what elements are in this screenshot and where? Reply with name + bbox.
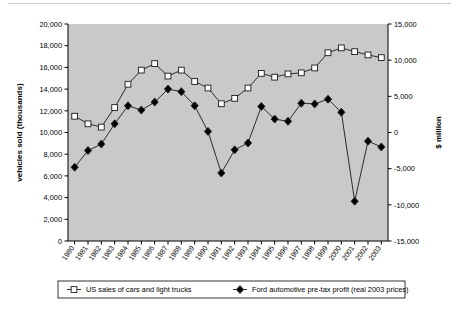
left-axis-tick-label: 0: [58, 237, 62, 246]
right-axis-tick-label: -15,000: [394, 237, 419, 246]
left-y-axis: 02,0004,0006,0008,00010,00012,00014,0001…: [39, 20, 68, 246]
right-axis-tick-label: -10,000: [394, 201, 419, 210]
combination-line-chart: 02,0004,0006,0008,00010,00012,00014,0001…: [0, 0, 459, 311]
x-axis-tick-label: 1995: [260, 244, 277, 262]
data-point: [112, 105, 118, 111]
plot-area-background: [68, 24, 388, 241]
x-axis-tick-label: 1994: [246, 244, 263, 262]
x-axis-tick-label: 1984: [113, 244, 130, 262]
x-axis-tick-label: 2001: [340, 244, 357, 262]
data-point: [192, 79, 198, 85]
left-axis-tick-label: 18,000: [39, 41, 62, 50]
right-axis-tick-label: 5,000: [394, 92, 413, 101]
left-axis-tick-label: 10,000: [39, 128, 62, 137]
x-axis-tick-label: 1982: [86, 244, 103, 262]
right-axis-tick-label: 15,000: [394, 20, 417, 29]
data-point: [352, 49, 358, 55]
legend-marker-open-square: [71, 287, 77, 293]
x-axis-tick-label: 2002: [353, 244, 370, 262]
data-point: [338, 45, 344, 51]
left-axis-tick-label: 20,000: [39, 20, 62, 29]
right-y-axis: -15,000-10,000-5,00005,00010,00015,000: [388, 20, 419, 246]
x-axis-tick-label: 1986: [140, 244, 157, 262]
data-point: [285, 71, 291, 77]
x-axis-tick-label: 1987: [153, 244, 170, 262]
x-axis-tick-label: 2000: [326, 244, 343, 262]
x-axis-tick-label: 1990: [193, 244, 210, 262]
right-axis-tick-label: -5,000: [394, 164, 415, 173]
data-point: [165, 73, 171, 79]
data-point: [272, 74, 278, 80]
left-axis-tick-label: 12,000: [39, 107, 62, 116]
x-axis-tick-label: 1992: [220, 244, 237, 262]
data-point: [138, 67, 144, 73]
x-axis-tick-label: 1993: [233, 244, 250, 262]
x-axis-tick-label: 2003: [366, 244, 383, 262]
x-axis-tick-label: 1991: [206, 244, 223, 262]
data-point: [245, 85, 251, 91]
data-point: [218, 101, 224, 107]
data-point: [98, 124, 104, 130]
left-axis-tick-label: 8,000: [44, 150, 63, 159]
left-axis-tick-label: 6,000: [44, 172, 63, 181]
data-point: [378, 55, 384, 61]
x-axis-tick-label: 1997: [286, 244, 303, 262]
legend-item-1[interactable]: US sales of cars and light trucks: [67, 285, 192, 294]
x-axis-tick-label: 1988: [166, 244, 183, 262]
left-axis-tick-label: 2,000: [44, 215, 63, 224]
data-point: [125, 81, 131, 87]
data-point: [152, 61, 158, 67]
data-point: [325, 50, 331, 56]
data-point: [72, 113, 78, 119]
x-axis-tick-label: 1998: [300, 244, 317, 262]
data-point: [365, 52, 371, 58]
x-axis-tick-label: 1981: [73, 244, 90, 262]
legend-label: US sales of cars and light trucks: [86, 285, 192, 294]
x-axis-tick-label: 1999: [313, 244, 330, 262]
x-axis-tick-label: 1989: [180, 244, 197, 262]
x-axis-tick-label: 1996: [273, 244, 290, 262]
x-axis-tick-label: 1980: [60, 244, 77, 262]
left-axis-tick-label: 14,000: [39, 85, 62, 94]
right-axis-tick-label: 10,000: [394, 56, 417, 65]
data-point: [298, 70, 304, 76]
right-axis-title: $ million: [434, 116, 443, 149]
chart-legend: US sales of cars and light trucksFord au…: [58, 281, 409, 298]
data-point: [85, 121, 91, 127]
data-point: [312, 65, 318, 71]
data-point: [205, 85, 211, 91]
legend-item-2[interactable]: Ford automotive pre-tax profit (real 200…: [233, 285, 409, 294]
left-axis-tick-label: 16,000: [39, 63, 62, 72]
x-axis-tick-label: 1985: [126, 244, 143, 262]
legend-label: Ford automotive pre-tax profit (real 200…: [252, 285, 409, 294]
data-point: [178, 67, 184, 73]
chart-container: 02,0004,0006,0008,00010,00012,00014,0001…: [0, 0, 459, 311]
left-axis-tick-label: 4,000: [44, 193, 63, 202]
x-axis: 1980198119821983198419851986198719881989…: [60, 241, 388, 262]
right-axis-tick-label: 0: [394, 128, 398, 137]
data-point: [258, 70, 264, 76]
data-point: [232, 95, 238, 101]
x-axis-tick-label: 1983: [100, 244, 117, 262]
left-axis-title: vehicles sold (thousands): [15, 83, 24, 182]
